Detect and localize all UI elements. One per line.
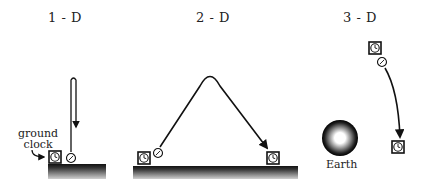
panel-2d — [133, 77, 298, 180]
end-clock-icon — [267, 152, 279, 164]
ground-surface — [133, 166, 298, 179]
panel-1-title: 1 - D — [48, 10, 82, 25]
panel-3-title: 3 - D — [343, 10, 377, 25]
traveling-clock-icon — [378, 58, 387, 67]
earth-icon — [322, 120, 358, 156]
ground-clock-label: ground clock — [18, 128, 58, 150]
diagram-canvas — [0, 0, 425, 183]
earth-label: Earth — [326, 159, 357, 170]
traveling-clock-icon — [67, 154, 76, 163]
panel-3d — [322, 42, 404, 156]
pointer-arrow — [32, 150, 44, 157]
panel-2-title: 2 - D — [196, 10, 230, 25]
trajectory-arrow — [71, 78, 76, 152]
high-clock-icon — [369, 42, 381, 54]
traveling-clock-icon — [154, 149, 163, 158]
trajectory-arrow — [160, 77, 267, 149]
start-clock-icon — [138, 152, 150, 164]
label-line-2: clock — [18, 139, 58, 150]
low-clock-icon — [392, 141, 404, 153]
ground-surface — [48, 164, 106, 179]
ground-clock-icon — [49, 151, 61, 163]
trajectory-arrow — [385, 68, 400, 137]
